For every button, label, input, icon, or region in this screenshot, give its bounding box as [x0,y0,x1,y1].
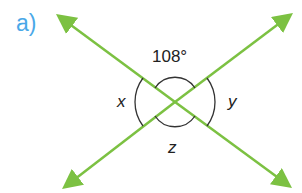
angle-arc-left [135,78,143,126]
intersecting-lines-figure [0,0,302,193]
angle-arc-top [155,77,195,88]
line-2-extension [66,102,175,186]
diagram-canvas: a) 108° x y z [0,0,302,193]
angle-label-top: 108° [152,47,187,67]
angle-label-z: z [168,138,177,158]
part-label: a) [16,10,36,37]
line-2 [175,16,289,102]
line-1-extension [175,102,288,185]
angle-label-x: x [117,92,126,112]
angle-arc-bottom [155,116,195,127]
angle-arc-right [207,78,215,126]
angle-label-y: y [228,92,237,112]
